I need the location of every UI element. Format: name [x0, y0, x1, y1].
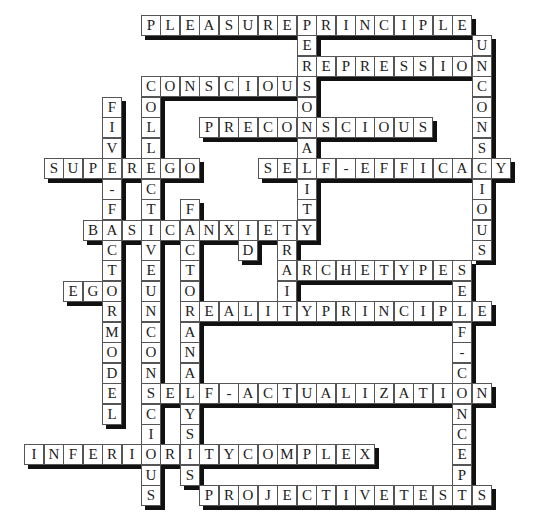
crossword-cell[interactable]: O [180, 281, 200, 302]
crossword-cell[interactable]: - [452, 342, 472, 363]
crossword-cell[interactable]: N [180, 76, 200, 97]
crossword-cell[interactable]: S [413, 56, 433, 77]
crossword-cell[interactable]: Z [374, 383, 394, 404]
crossword-cell[interactable]: O [277, 117, 297, 138]
crossword-cell[interactable]: R [219, 485, 239, 506]
crossword-cell[interactable]: L [452, 301, 472, 322]
crossword-cell[interactable]: O [472, 199, 492, 220]
crossword-cell[interactable]: Y [180, 404, 200, 425]
crossword-cell[interactable]: J [258, 485, 278, 506]
crossword-cell[interactable]: F [63, 444, 83, 465]
crossword-cell[interactable]: T [102, 260, 122, 281]
crossword-cell[interactable]: E [355, 158, 375, 179]
crossword-cell[interactable]: C [141, 404, 161, 425]
crossword-cell[interactable]: N [44, 444, 64, 465]
crossword-cell[interactable]: N [355, 15, 375, 36]
crossword-cell[interactable]: C [374, 15, 394, 36]
crossword-cell[interactable]: E [452, 15, 472, 36]
crossword-cell[interactable]: O [160, 76, 180, 97]
crossword-cell[interactable]: S [199, 76, 219, 97]
crossword-cell[interactable]: T [277, 301, 297, 322]
crossword-cell[interactable]: S [472, 485, 492, 506]
crossword-cell[interactable]: U [297, 383, 317, 404]
crossword-cell[interactable]: A [180, 220, 200, 241]
crossword-cell[interactable]: S [413, 117, 433, 138]
crossword-cell[interactable]: C [160, 220, 180, 241]
crossword-cell[interactable]: I [355, 383, 375, 404]
crossword-cell[interactable]: F [180, 199, 200, 220]
crossword-cell[interactable]: - [219, 383, 239, 404]
crossword-cell[interactable]: V [102, 138, 122, 159]
crossword-cell[interactable]: S [394, 56, 414, 77]
crossword-cell[interactable]: T [180, 260, 200, 281]
crossword-cell[interactable]: D [102, 363, 122, 384]
crossword-cell[interactable]: E [297, 35, 317, 56]
crossword-cell[interactable]: S [316, 117, 336, 138]
crossword-cell[interactable]: L [316, 444, 336, 465]
crossword-cell[interactable]: F [102, 199, 122, 220]
crossword-cell[interactable]: E [277, 158, 297, 179]
crossword-cell[interactable]: C [394, 301, 414, 322]
crossword-cell[interactable]: P [297, 444, 317, 465]
crossword-cell[interactable]: Y [297, 220, 317, 241]
crossword-cell[interactable]: I [122, 444, 142, 465]
crossword-cell[interactable]: O [141, 342, 161, 363]
crossword-cell[interactable]: P [297, 15, 317, 36]
crossword-cell[interactable]: V [141, 240, 161, 261]
crossword-cell[interactable]: I [394, 15, 414, 36]
crossword-cell[interactable]: I [141, 424, 161, 445]
crossword-cell[interactable]: P [316, 301, 336, 322]
crossword-cell[interactable]: P [199, 117, 219, 138]
crossword-cell[interactable]: R [102, 301, 122, 322]
crossword-cell[interactable]: S [141, 383, 161, 404]
crossword-cell[interactable]: E [336, 444, 356, 465]
crossword-cell[interactable]: S [141, 485, 161, 506]
crossword-cell[interactable]: T [374, 260, 394, 281]
crossword-cell[interactable]: R [297, 260, 317, 281]
crossword-cell[interactable]: O [238, 485, 258, 506]
crossword-cell[interactable]: I [24, 444, 44, 465]
crossword-cell[interactable]: R [277, 240, 297, 261]
crossword-cell[interactable]: S [180, 424, 200, 445]
crossword-cell[interactable]: I [180, 444, 200, 465]
crossword-cell[interactable]: S [180, 465, 200, 486]
crossword-cell[interactable]: N [180, 342, 200, 363]
crossword-cell[interactable]: A [277, 260, 297, 281]
crossword-cell[interactable]: O [180, 158, 200, 179]
crossword-cell[interactable]: L [336, 383, 356, 404]
crossword-cell[interactable]: U [141, 281, 161, 302]
crossword-cell[interactable]: I [355, 117, 375, 138]
crossword-cell[interactable]: T [277, 383, 297, 404]
crossword-cell[interactable]: O [452, 383, 472, 404]
crossword-cell[interactable]: C [297, 485, 317, 506]
crossword-cell[interactable]: C [336, 117, 356, 138]
crossword-cell[interactable]: O [141, 97, 161, 118]
crossword-cell[interactable]: O [258, 444, 278, 465]
crossword-cell[interactable]: C [472, 158, 492, 179]
crossword-cell[interactable]: P [199, 485, 219, 506]
crossword-cell[interactable]: O [297, 97, 317, 118]
crossword-cell[interactable]: P [433, 301, 453, 322]
crossword-cell[interactable]: C [141, 322, 161, 343]
crossword-cell[interactable]: N [472, 383, 492, 404]
crossword-cell[interactable]: U [472, 35, 492, 56]
crossword-cell[interactable]: I [102, 117, 122, 138]
crossword-cell[interactable]: S [452, 260, 472, 281]
crossword-cell[interactable]: I [433, 383, 453, 404]
crossword-cell[interactable]: C [258, 117, 278, 138]
crossword-cell[interactable]: F [374, 158, 394, 179]
crossword-cell[interactable]: M [102, 322, 122, 343]
crossword-cell[interactable]: L [297, 158, 317, 179]
crossword-cell[interactable]: T [297, 199, 317, 220]
crossword-cell[interactable]: C [472, 76, 492, 97]
crossword-cell[interactable]: C [141, 76, 161, 97]
crossword-cell[interactable]: A [238, 383, 258, 404]
crossword-cell[interactable]: L [102, 404, 122, 425]
crossword-cell[interactable]: P [141, 15, 161, 36]
crossword-cell[interactable]: U [63, 158, 83, 179]
crossword-cell[interactable]: S [122, 220, 142, 241]
crossword-cell[interactable]: L [160, 15, 180, 36]
crossword-cell[interactable]: O [258, 76, 278, 97]
crossword-cell[interactable]: B [83, 220, 103, 241]
crossword-cell[interactable]: E [180, 15, 200, 36]
